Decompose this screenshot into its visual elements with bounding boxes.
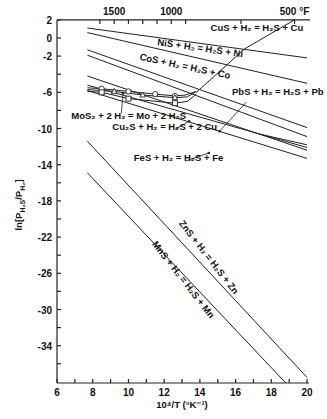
- y-tick-label: -6: [43, 87, 52, 98]
- x-tick-label: 12: [159, 387, 171, 398]
- reaction-label: MoS₂ + 2 H₂ = Mo + 2 H₂S: [71, 110, 186, 121]
- y-tick-label: -34: [38, 341, 53, 352]
- x-tick-label: 6: [54, 387, 60, 398]
- top-tick-label: 1500: [103, 6, 126, 17]
- y-tick-label: -18: [38, 196, 53, 207]
- square-marker-icon: [126, 96, 131, 101]
- y-tick-label: -10: [38, 124, 53, 135]
- reaction-label: PbS + H₂ = H₂S + Pb: [232, 86, 324, 97]
- circle-marker-icon: [126, 89, 131, 94]
- y-axis-label: ln[PH₂S/PH₂]: [13, 179, 26, 230]
- x-tick-label: 14: [194, 387, 206, 398]
- y-tick-label: 2: [46, 15, 52, 26]
- series-line: [259, 134, 307, 145]
- reaction-label: Cu₂S + H₂ = H₂S + 2 Cu: [112, 121, 217, 132]
- x-tick-label: 18: [266, 387, 278, 398]
- series-line: [87, 33, 307, 84]
- square-marker-icon: [172, 101, 177, 106]
- x-tick-label: 8: [90, 387, 96, 398]
- x-tick-label: 16: [230, 387, 242, 398]
- reaction-label: CuS + H₂ = H₂S + Cu: [211, 22, 304, 33]
- chart-svg: 6810121416182020-2-6-10-14-18-22-26-30-3…: [0, 0, 327, 419]
- y-tick-label: -26: [38, 268, 53, 279]
- reaction-label: FeS + H₂ = H₂S + Fe: [134, 152, 224, 163]
- y-tick-label: -14: [38, 160, 53, 171]
- y-tick-label: -2: [43, 51, 52, 62]
- x-tick-label: 10: [123, 387, 135, 398]
- top-tick-label: 1000: [160, 6, 183, 17]
- series-lines: [87, 20, 307, 383]
- annotations: CuS + H₂ = H₂S + CuNiS + H₂ = H₂S + NiCo…: [71, 22, 324, 321]
- x-axis-label: 10⁴/T (°K⁻¹): [156, 399, 208, 410]
- square-marker-icon: [99, 90, 104, 95]
- top-tick-label: 500 °F: [280, 6, 310, 17]
- circle-marker-icon: [153, 92, 158, 97]
- y-tick-label: -22: [38, 232, 53, 243]
- series-line: [87, 141, 307, 377]
- x-tick-label: 20: [301, 387, 313, 398]
- y-tick-label: 0: [46, 33, 52, 44]
- y-tick-label: -30: [38, 305, 53, 316]
- reaction-label: NiS + H₂ = H₂S + Ni: [157, 36, 244, 59]
